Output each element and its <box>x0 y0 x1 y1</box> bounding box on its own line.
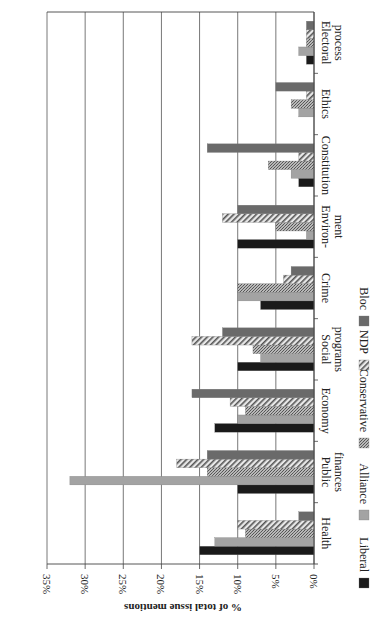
value-axis: 0%5%10%15%20%25%30%35% <box>41 564 320 594</box>
bar-ndp <box>238 520 314 529</box>
value-tick-label: 20% <box>155 574 167 594</box>
bar-ndp <box>192 336 314 345</box>
issue-mentions-chart: 0%5%10%15%20%25%30%35% HealthPublicfinan… <box>0 0 383 619</box>
category-label: Constitution <box>319 136 333 195</box>
bar-conservative <box>306 38 314 47</box>
category-axis: HealthPublicfinancesEconomySocialprogram… <box>314 21 346 549</box>
bar-series <box>70 21 314 555</box>
bar-bloc <box>207 144 314 153</box>
bar-ndp <box>230 398 314 407</box>
category-group-constitution <box>207 144 314 187</box>
bar-bloc <box>222 328 314 337</box>
bar-conservative <box>276 222 314 231</box>
category-label: Social <box>319 334 333 365</box>
bar-bloc <box>276 83 314 92</box>
bar-alliance <box>238 415 314 424</box>
value-tick-label: 5% <box>270 574 282 589</box>
bar-conservative <box>253 345 314 354</box>
bar-ndp <box>306 91 314 100</box>
bar-bloc <box>192 389 314 398</box>
legend-swatch <box>359 360 369 370</box>
category-label: Environ- <box>319 205 333 248</box>
bar-bloc <box>238 205 314 214</box>
category-label: finances <box>332 452 346 492</box>
category-label: process <box>332 25 346 61</box>
bar-alliance <box>261 354 314 363</box>
value-tick-label: 25% <box>117 574 129 594</box>
category-group-public-finances <box>70 451 314 494</box>
category-label: programs <box>332 327 346 373</box>
bar-ndp <box>222 214 314 223</box>
chart-canvas: 0%5%10%15%20%25%30%35% HealthPublicfinan… <box>0 0 383 619</box>
bar-bloc <box>207 451 314 460</box>
category-label: ment <box>332 215 346 240</box>
bar-liberal <box>238 485 314 494</box>
bar-liberal <box>238 240 314 249</box>
legend-label: Conservative <box>357 369 371 432</box>
bar-ndp <box>177 459 314 468</box>
bar-ndp <box>306 30 314 39</box>
bar-conservative <box>245 406 314 415</box>
bar-liberal <box>238 362 314 371</box>
value-tick-label: 30% <box>79 574 91 594</box>
category-group-environ-ment <box>222 205 314 248</box>
value-tick-label: 15% <box>194 574 206 594</box>
legend: LiberalAllianceConservativeNDPBloc <box>357 287 371 588</box>
category-group-electoral-process <box>299 21 314 64</box>
legend-label: Alliance <box>357 463 371 504</box>
category-label: Public <box>319 457 333 488</box>
bar-conservative <box>245 529 314 538</box>
legend-item-alliance: Alliance <box>357 463 371 520</box>
legend-label: Liberal <box>357 537 371 572</box>
bar-bloc <box>291 267 314 276</box>
bar-liberal <box>261 301 314 310</box>
category-group-ethics <box>276 83 314 117</box>
bar-alliance <box>238 292 314 301</box>
legend-label: Bloc <box>357 287 371 310</box>
legend-swatch <box>359 578 369 588</box>
bar-ndp <box>283 275 314 284</box>
bar-bloc <box>299 512 314 521</box>
category-group-social-programs <box>192 328 314 371</box>
category-label: Crime <box>319 273 333 303</box>
bar-conservative <box>268 161 314 170</box>
bar-alliance <box>70 476 314 485</box>
legend-item-ndp: NDP <box>357 330 371 370</box>
bar-conservative <box>207 468 314 477</box>
value-tick-label: 0% <box>308 574 320 589</box>
category-label: Ethics <box>319 89 333 119</box>
value-tick-label: 10% <box>232 574 244 594</box>
legend-item-liberal: Liberal <box>357 537 371 588</box>
bar-liberal <box>215 424 314 433</box>
bar-alliance <box>299 108 314 117</box>
legend-item-conservative: Conservative <box>357 369 371 448</box>
value-tick-label: 35% <box>41 574 53 594</box>
bar-ndp <box>299 152 314 161</box>
bar-alliance <box>291 170 314 179</box>
bar-conservative <box>238 284 314 293</box>
category-label: Electoral <box>319 21 333 65</box>
bar-liberal <box>200 546 314 555</box>
bar-alliance <box>215 538 314 547</box>
category-group-economy <box>192 389 314 432</box>
legend-swatch <box>359 438 369 448</box>
bar-conservative <box>291 100 314 109</box>
category-group-health <box>200 512 314 555</box>
legend-swatch <box>359 316 369 326</box>
category-label: Economy <box>319 388 333 434</box>
legend-swatch <box>359 510 369 520</box>
bar-alliance <box>299 47 314 56</box>
bar-alliance <box>306 231 314 240</box>
legend-item-bloc: Bloc <box>357 287 371 326</box>
value-axis-title: % of total issue mentions <box>123 602 242 614</box>
legend-label: NDP <box>357 330 371 354</box>
category-label: Health <box>319 517 333 549</box>
bar-bloc <box>306 21 314 30</box>
bar-liberal <box>299 178 314 187</box>
bar-liberal <box>306 56 314 65</box>
